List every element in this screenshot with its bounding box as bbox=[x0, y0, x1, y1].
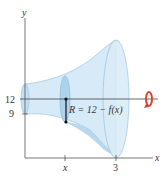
radius-bottom-dot bbox=[64, 120, 67, 123]
x-tick-label-3: 3 bbox=[113, 162, 118, 173]
y-axis-label: y bbox=[21, 7, 27, 18]
solid-body bbox=[25, 40, 116, 157]
y-tick-label-12: 12 bbox=[5, 94, 15, 105]
y-tick-label-9: 9 bbox=[9, 108, 14, 119]
radius-top-dot bbox=[64, 97, 67, 100]
solid-of-revolution-diagram: y x 12 9 x 3 R = 12 − f(x) bbox=[0, 0, 165, 184]
rotation-arrow-icon bbox=[144, 92, 152, 108]
x-axis-label: x bbox=[154, 152, 160, 163]
x-tick-label-x: x bbox=[62, 162, 68, 173]
radius-annotation: R = 12 − f(x) bbox=[68, 104, 123, 116]
